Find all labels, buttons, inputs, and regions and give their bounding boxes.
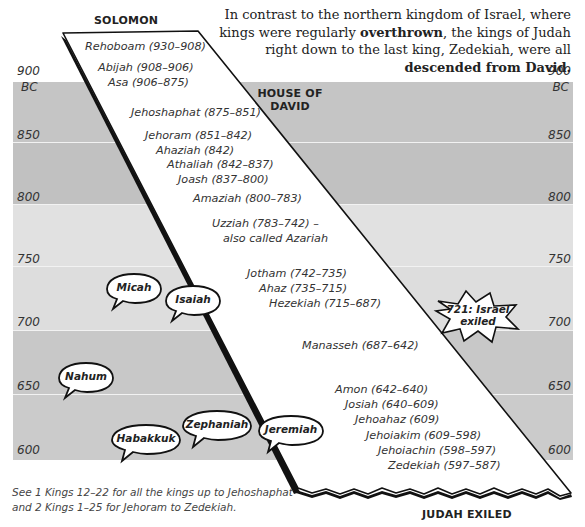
king-jehoram: Jehoram (851–842) — [145, 129, 252, 142]
king-hezekiah: Hezekiah (715–687) — [269, 297, 381, 310]
king-jehoshaphat: Jehoshaphat (875–851) — [131, 106, 261, 119]
prophet-name: Jeremiah — [256, 423, 326, 435]
prophet-bubble-habakkuk: Habakkuk — [109, 422, 183, 466]
prophet-bubble-micah: Micah — [104, 271, 164, 313]
speech-bubble-icon — [109, 422, 183, 466]
king-jehoiakim: Jehoiakim (609–598) — [366, 429, 481, 442]
king-asa: Asa (906–875) — [108, 76, 189, 89]
prophet-name: Zephaniah — [180, 418, 254, 430]
prophet-name: Isaiah — [163, 293, 223, 305]
prophet-bubble-jeremiah: Jeremiah — [256, 413, 326, 457]
prophet-name: Habakkuk — [109, 432, 183, 444]
king-uzziah: Uzziah (783–742) – — [212, 217, 319, 230]
king-jotham: Jotham (742–735) — [247, 267, 347, 280]
king-josiah: Josiah (640–609) — [345, 398, 439, 411]
speech-bubble-icon — [256, 413, 326, 457]
prophet-bubble-isaiah: Isaiah — [163, 283, 223, 325]
king-zedekiah: Zedekiah (597–587) — [388, 459, 501, 472]
king-uzziah-note: also called Azariah — [223, 232, 328, 245]
footnote-line2: and 2 Kings 1–25 for Jehoram to Zedekiah… — [12, 500, 293, 515]
footnote: See 1 Kings 12–22 for all the kings up t… — [12, 485, 293, 515]
prophet-name: Nahum — [56, 370, 116, 382]
prophet-bubble-nahum: Nahum — [56, 360, 116, 402]
king-joash: Joash (837–800) — [178, 173, 269, 186]
event-badge-israel-exiled: 721: Israel exiled — [430, 287, 522, 345]
king-ahaz: Ahaz (735–715) — [259, 282, 347, 295]
king-ahaziah: Ahaziah (842) — [156, 144, 234, 157]
king-jehoahaz: Jehoahaz (609) — [355, 413, 439, 426]
speech-bubble-icon — [180, 408, 254, 452]
king-athaliah: Athaliah (842–837) — [167, 158, 274, 171]
event-line1: 721: Israel — [440, 303, 516, 315]
king-manasseh: Manasseh (687–642) — [302, 339, 419, 352]
event-text: 721: Israel exiled — [440, 303, 516, 327]
king-abijah: Abijah (908–906) — [98, 61, 194, 74]
king-amaziah: Amaziah (800–783) — [193, 192, 302, 205]
prophet-bubble-zephaniah: Zephaniah — [180, 408, 254, 452]
event-line2: exiled — [440, 315, 516, 327]
king-rehoboam: Rehoboam (930–908) — [85, 40, 206, 53]
footnote-line1: See 1 Kings 12–22 for all the kings up t… — [12, 485, 293, 500]
king-amon: Amon (642–640) — [335, 383, 428, 396]
prophet-name: Micah — [104, 281, 164, 293]
king-jehoiachin: Jehoiachin (598–597) — [378, 444, 496, 457]
